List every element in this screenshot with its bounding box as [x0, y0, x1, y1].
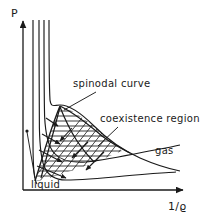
y-axis-label: P — [11, 8, 18, 19]
x-axis-label-numerator: 1/ — [168, 200, 179, 213]
liquid-leader-dot — [25, 129, 28, 132]
gas-region-label: gas — [155, 146, 174, 156]
isotherm-curves — [33, 20, 180, 184]
coexistence-tie-arrows — [37, 118, 104, 178]
spinodal-curve-label: spinodal curve — [73, 79, 150, 89]
axis-group — [23, 21, 183, 190]
phase-diagram-figure: P 1/ϱ spinodal curve coexistence region … — [0, 0, 204, 222]
x-axis-label-rho-symbol: ϱ — [179, 200, 186, 213]
isotherm-curve-1 — [33, 20, 37, 184]
liquid-region-label: liquid — [31, 180, 60, 190]
spinodal-leader-line — [64, 92, 96, 110]
x-axis-label: 1/ϱ — [168, 201, 187, 212]
coexistence-region-label: coexistence region — [100, 114, 200, 124]
liquid-leader-line — [27, 132, 35, 178]
